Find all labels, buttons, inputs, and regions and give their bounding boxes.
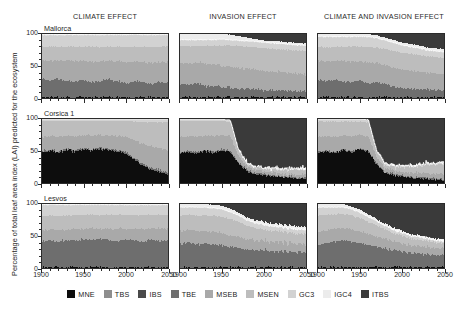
x-tick-mark [239,99,240,101]
x-tick-mark [92,184,93,186]
legend-item-tbe: TBE [171,290,197,299]
x-tick-mark [75,269,76,271]
x-tick-mark [92,269,93,271]
legend-swatch-gc3-icon [288,290,296,298]
x-tick-mark [256,184,257,186]
y-tick-mark [39,229,41,230]
x-tick-mark [222,184,223,188]
x-tick-mark [169,269,170,273]
y-axis-label: Percentage of total leaf area index (LAI… [10,53,19,276]
legend-swatch-tbe-icon [171,290,179,298]
y-tick-mark [38,203,42,204]
x-tick-mark [445,99,446,103]
panel-plot-area [318,204,444,268]
x-tick-mark [334,269,335,271]
x-tick-mark [402,269,403,273]
y-tick-mark [39,131,41,132]
legend-swatch-msen-icon [246,290,254,298]
x-tick-mark [126,269,127,273]
x-tick-mark [109,184,110,186]
x-tick-mark [428,184,429,186]
x-tick-mark [169,99,170,103]
x-tick-mark [196,184,197,186]
x-tick-mark [290,269,291,271]
legend-swatch-itbs-icon [361,290,369,298]
x-tick-mark [84,184,85,188]
y-tick-mallorca-100: 100 [20,29,38,36]
x-tick-mark [273,269,274,271]
y-tick-mark [39,40,41,41]
panel-plot-area [318,119,444,183]
panel-corsica1-invasion [179,118,307,184]
y-tick-mark [39,171,41,172]
x-tick-mark [213,99,214,101]
x-tick-mark [326,269,327,271]
x-tick-mark [334,184,335,186]
x-tick-mark [213,184,214,186]
x-tick-mark [143,269,144,271]
legend-item-mne: MNE [67,290,95,299]
x-tick-mark [307,269,308,273]
y-tick-corsica1-100: 100 [20,114,38,121]
x-tick-mark [290,99,291,101]
x-tick-mark [58,99,59,101]
x-tick-mark [118,99,119,101]
y-tick-corsica1-50: 50 [20,147,38,154]
x-tick-mark [126,184,127,188]
y-tick-mark [39,46,41,47]
legend-label: IGC4 [334,290,352,299]
legend-item-gc3: GC3 [288,290,314,299]
x-tick-mark [222,269,223,273]
y-tick-mark [38,236,42,237]
panel-plot-area [318,34,444,98]
y-tick-mark [39,216,41,217]
x-tick-mark [213,269,214,271]
x-tick-mark [351,184,352,186]
legend-label: GC3 [299,290,314,299]
y-tick-mark [39,164,41,165]
y-tick-mark [39,177,41,178]
x-tick-mark [402,184,403,188]
area-msen [42,214,168,231]
panel-plot-area [180,119,306,183]
x-tick-mark [437,184,438,186]
y-tick-mark [38,99,42,100]
x-tick-mark [101,99,102,101]
x-tick-mark [307,99,308,103]
x-tick-mark [368,269,369,271]
x-tick-mark [351,269,352,271]
x-tick-mark [360,184,361,188]
x-tick-mark [239,184,240,186]
column-title-climate-and-invasion-effect: CLIMATE AND INVASION EFFECT [314,12,454,21]
x-tick-mark [109,99,110,101]
panel-corsica1-climate [41,118,169,184]
column-title-invasion-effect: INVASION EFFECT [178,12,308,21]
x-tick-mark [101,184,102,186]
x-tick-mark [411,184,412,186]
y-tick-mark [39,262,41,263]
panel-plot-area [180,204,306,268]
x-tick-mark [247,269,248,271]
x-tick-mark [385,184,386,186]
x-tick-mark [317,184,318,188]
panel-lesvos-both [317,203,445,269]
x-tick-mark [75,99,76,101]
x-tick-mark [58,184,59,186]
y-tick-mark [39,249,41,250]
legend-label: IBS [149,290,161,299]
x-tick-mark [334,99,335,101]
x-tick-mark [307,184,308,188]
x-tick-mark [41,99,42,103]
row-label-corsica-1: Corsica 1 [44,109,74,118]
legend-label: MSEN [257,290,279,299]
panel-plot-area [180,34,306,98]
y-tick-mark [38,151,42,152]
x-tick-mark [343,99,344,101]
y-tick-mark [39,86,41,87]
y-tick-mark [39,59,41,60]
legend-item-ibs: IBS [138,290,161,299]
x-tick-mark [222,99,223,103]
x-tick-mark [360,99,361,103]
x-tick-mark [196,99,197,101]
x-tick-mark [299,184,300,186]
